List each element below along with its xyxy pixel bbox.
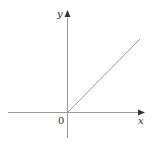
x-axis-label: x (138, 115, 144, 126)
y-axis-label: y (56, 8, 63, 19)
graph: y x 0 (0, 0, 153, 146)
function-line (68, 39, 141, 113)
y-axis-arrow-icon (65, 10, 71, 17)
origin-label: 0 (58, 115, 64, 126)
